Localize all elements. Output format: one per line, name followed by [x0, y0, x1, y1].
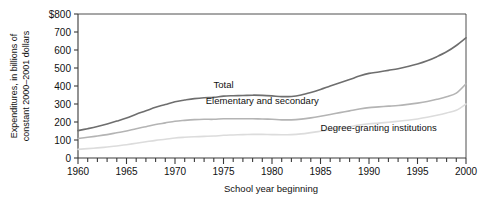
x-tick-label: 1970: [164, 166, 187, 177]
x-axis-tick-labels: 196019651970197519801985199019952000: [67, 166, 478, 177]
x-tick-label: 2000: [455, 166, 478, 177]
x-tick-label: 1960: [67, 166, 90, 177]
y-axis-title-line2: constant 2000–2001 dollars: [21, 30, 31, 141]
y-axis-title-line1: Expenditures, in billions of: [9, 33, 19, 138]
y-tick-label: 300: [54, 99, 71, 110]
y-tick-label: 100: [54, 135, 71, 146]
y-tick-label: 0: [65, 153, 71, 164]
expenditures-line-chart: 0100200300400500600700$800 1960196519701…: [0, 0, 486, 203]
y-tick-label: 200: [54, 117, 71, 128]
y-tick-label: 700: [54, 27, 71, 38]
x-tick-label: 1985: [309, 166, 332, 177]
y-tick-label: $800: [49, 9, 72, 20]
x-tick-label: 1995: [406, 166, 429, 177]
chart-figure: 0100200300400500600700$800 1960196519701…: [0, 0, 486, 203]
x-tick-label: 1980: [261, 166, 284, 177]
x-tick-label: 1990: [358, 166, 381, 177]
y-tick-label: 500: [54, 63, 71, 74]
x-tick-label: 1965: [115, 166, 138, 177]
x-tick-label: 1975: [212, 166, 235, 177]
series-label-elementary-and-secondary: Elementary and secondary: [206, 95, 319, 106]
y-tick-label: 600: [54, 45, 71, 56]
series-label-total: Total: [213, 79, 233, 90]
y-tick-label: 400: [54, 81, 71, 92]
x-axis-title: School year beginning: [224, 183, 318, 194]
series-label-degree-granting-institutions: Degree-granting institutions: [321, 122, 437, 133]
